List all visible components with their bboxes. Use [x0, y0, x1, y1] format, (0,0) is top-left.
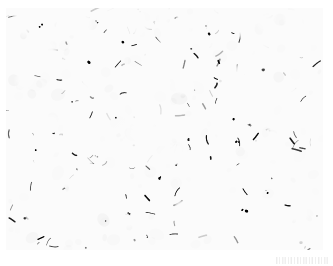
micrograph-figure [6, 8, 323, 250]
page-title: Histopathology micrograph [0, 21, 1, 22]
scan-smudge-artifact [276, 257, 330, 264]
page-root: Histopathology micrograph [0, 0, 333, 266]
micrograph-image [6, 8, 323, 250]
